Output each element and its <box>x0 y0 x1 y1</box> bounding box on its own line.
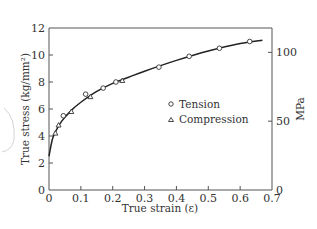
tension-point <box>247 39 252 44</box>
y-tick-label: 0 <box>38 184 45 197</box>
x-axis-title: True strain (ε) <box>122 202 198 214</box>
tension-point <box>83 92 88 97</box>
x-tick-label: 0.1 <box>72 192 90 205</box>
tension-point <box>101 86 106 91</box>
y-tick-label: 6 <box>38 103 45 116</box>
tension-point <box>61 113 66 118</box>
y2-tick-label: 50 <box>276 115 290 128</box>
compression-point <box>69 109 74 113</box>
legend-tension-label: Tension <box>179 98 220 110</box>
y2-axis-title: MPa <box>294 97 306 121</box>
tension-point <box>217 46 222 51</box>
y-tick-label: 8 <box>38 76 45 89</box>
x-tick-label: 0.2 <box>104 192 122 205</box>
y2-tick-label: 100 <box>276 46 297 59</box>
y-axis-title: True stress (kg/mm²) <box>19 53 31 165</box>
tension-point <box>187 54 192 59</box>
tension-point <box>114 80 119 85</box>
legend: Tension Compression <box>169 98 249 125</box>
y-tick-label: 10 <box>31 49 45 62</box>
fitted-curve <box>49 40 262 156</box>
tension-point <box>157 65 162 70</box>
compression-point <box>53 131 58 135</box>
x-tick-label: 0.5 <box>200 192 218 205</box>
stress-strain-chart: 00.10.20.30.40.50.60.7024681012050100 Tr… <box>0 0 317 229</box>
x-tick-label: 0 <box>46 192 53 205</box>
y-tick-label: 12 <box>31 22 45 35</box>
y-tick-label: 4 <box>38 130 45 143</box>
legend-compression-marker <box>169 118 174 122</box>
legend-compression-label: Compression <box>179 113 249 125</box>
y-tick-label: 2 <box>38 157 45 170</box>
x-tick-label: 0.6 <box>231 192 249 205</box>
fitted-curve-layer <box>49 40 262 156</box>
decorative-pencil-mark <box>2 108 14 152</box>
y2-tick-label: 0 <box>276 184 283 197</box>
legend-tension-marker <box>169 102 173 106</box>
